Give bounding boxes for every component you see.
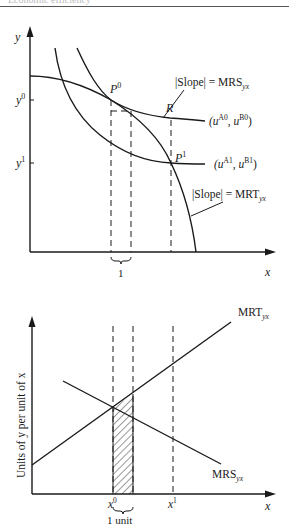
point-r-label: R bbox=[165, 101, 174, 115]
top-unit-brace bbox=[111, 257, 131, 264]
mrs-line bbox=[63, 381, 221, 464]
bottom-y-axis-arrow-icon bbox=[29, 316, 36, 327]
mrs-slope-annotation: |Slope| = MRSyx bbox=[175, 76, 250, 91]
bottom-x-axis-arrow-icon bbox=[265, 491, 276, 498]
bottom-y-axis-label: Units of y per unit of x bbox=[15, 372, 28, 478]
top-y-axis-arrow-icon bbox=[27, 26, 34, 37]
y1-tick-label: y1 bbox=[15, 155, 25, 170]
bottom-unit-label: 1 unit bbox=[107, 514, 132, 526]
mrt-leader-line bbox=[191, 202, 223, 216]
indifference-curve-u1 bbox=[55, 48, 205, 164]
top-x-axis-arrow-icon bbox=[265, 249, 276, 256]
top-y-axis-label: y bbox=[14, 30, 21, 44]
y0-tick-label: y0 bbox=[15, 92, 25, 107]
point-p0-label: P0 bbox=[109, 81, 121, 96]
mrs-line-label: MRSyx bbox=[212, 468, 244, 483]
bottom-x-axis-label: x bbox=[264, 499, 271, 513]
lower-indifference-label: (uA1, uB1) bbox=[214, 156, 257, 171]
mrt-line-label: MRTyx bbox=[238, 306, 270, 321]
top-x-axis-label: x bbox=[264, 265, 271, 279]
point-p1-label: P1 bbox=[174, 150, 186, 165]
bottom-unit-brace bbox=[113, 507, 133, 514]
mrt-slope-annotation: |Slope| = MRTyx bbox=[192, 188, 267, 203]
x1-tick-label: x1 bbox=[167, 496, 177, 510]
top-diagram bbox=[27, 26, 277, 264]
diagram-canvas: y x y0 y1 P0 P1 R |Slope| = MRSyx |Slope… bbox=[0, 0, 289, 526]
top-unit-label: 1 bbox=[118, 267, 124, 279]
x0-tick-label: x0 bbox=[107, 496, 117, 510]
upper-indifference-label: (uA0, uB0) bbox=[209, 113, 252, 128]
bottom-diagram bbox=[29, 316, 277, 514]
